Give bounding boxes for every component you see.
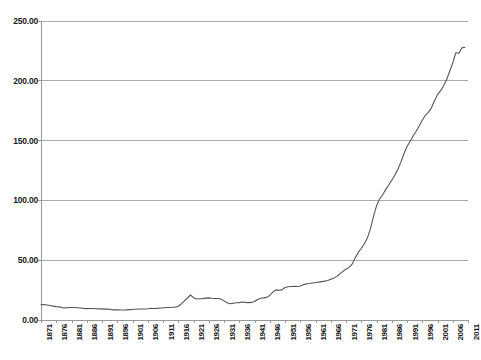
y-tick-label: 200.00 xyxy=(13,76,38,86)
x-tick-label: 1976 xyxy=(365,324,374,341)
chart-svg xyxy=(0,0,481,360)
x-tick-label: 2006 xyxy=(456,324,465,341)
x-tick-label: 1981 xyxy=(380,324,389,341)
x-tick-label: 1886 xyxy=(90,324,99,341)
y-tick-label: 150.00 xyxy=(13,136,38,146)
y-tick-label: 250.00 xyxy=(13,16,38,26)
y-tick-label: 100.00 xyxy=(13,195,38,205)
x-tick-label: 1911 xyxy=(167,324,176,340)
x-tick-label: 1991 xyxy=(411,324,420,341)
x-tick-label: 1921 xyxy=(197,324,206,341)
axes-group xyxy=(38,21,468,320)
x-tick-label: 1871 xyxy=(45,324,54,341)
x-tick-label: 1961 xyxy=(319,324,328,341)
x-tick-label: 1941 xyxy=(258,324,267,341)
y-axis-tick-labels: 0.0050.00100.00150.00200.00250.00 xyxy=(0,0,38,360)
x-tick-label: 1891 xyxy=(106,324,115,341)
x-tick-label: 1986 xyxy=(395,324,404,341)
x-tick-label: 1966 xyxy=(334,324,343,341)
x-tick-label: 1901 xyxy=(136,324,145,341)
gridlines-group xyxy=(41,21,468,260)
x-tick-label: 1926 xyxy=(212,324,221,341)
x-tick-label: 1896 xyxy=(121,324,130,341)
data-series-line xyxy=(41,47,465,310)
x-tick-label: 1931 xyxy=(228,324,237,341)
x-tick-label: 1936 xyxy=(243,324,252,341)
price-index-line-chart: 0.0050.00100.00150.00200.00250.00 187118… xyxy=(0,0,481,360)
x-tick-label: 1881 xyxy=(75,324,84,341)
x-tick-label: 1951 xyxy=(289,324,298,341)
y-tick-label: 50.00 xyxy=(18,255,38,265)
x-tick-label: 1971 xyxy=(350,324,359,341)
x-tick-label: 1956 xyxy=(304,324,313,341)
x-tick-label: 2001 xyxy=(441,324,450,341)
x-axis-tick-labels: 1871187618811886189118961901190619111916… xyxy=(0,324,481,360)
x-tick-label: 1996 xyxy=(426,324,435,341)
x-tick-label: 1906 xyxy=(151,324,160,341)
x-tick-label: 2011 xyxy=(472,324,481,340)
x-tick-label: 1946 xyxy=(273,324,282,341)
plot-area xyxy=(0,0,481,360)
x-tick-label: 1876 xyxy=(60,324,69,341)
x-tick-label: 1916 xyxy=(182,324,191,341)
